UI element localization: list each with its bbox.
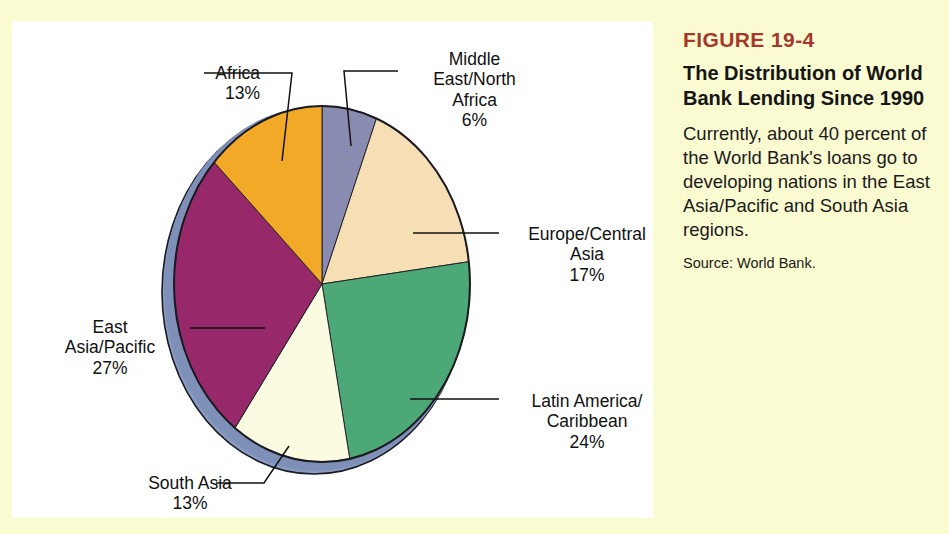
label-south-asia: South Asia 13% bbox=[100, 473, 280, 514]
figure-source: Source: World Bank. bbox=[683, 255, 931, 272]
label-latin-america-caribbean: Latin America/ Caribbean 24% bbox=[507, 391, 667, 452]
caption-column: FIGURE 19-4 The Distribution of World Ba… bbox=[683, 28, 931, 272]
label-middle-east-north-africa: Middle East/North Africa 6% bbox=[407, 49, 542, 130]
figure-description: Currently, about 40 percent of the World… bbox=[683, 122, 931, 241]
figure-number: FIGURE 19-4 bbox=[683, 28, 931, 52]
label-africa: Africa 13% bbox=[152, 63, 260, 104]
chart-panel: Africa 13% Middle East/North Africa 6% E… bbox=[12, 21, 653, 518]
label-europe-central-asia: Europe/Central Asia 17% bbox=[507, 224, 667, 285]
pie-slices bbox=[174, 106, 470, 462]
label-east-asia-pacific: East Asia/Pacific 27% bbox=[40, 317, 180, 378]
figure-19-4: Africa 13% Middle East/North Africa 6% E… bbox=[0, 0, 949, 534]
figure-title: The Distribution of World Bank Lending S… bbox=[683, 61, 931, 111]
